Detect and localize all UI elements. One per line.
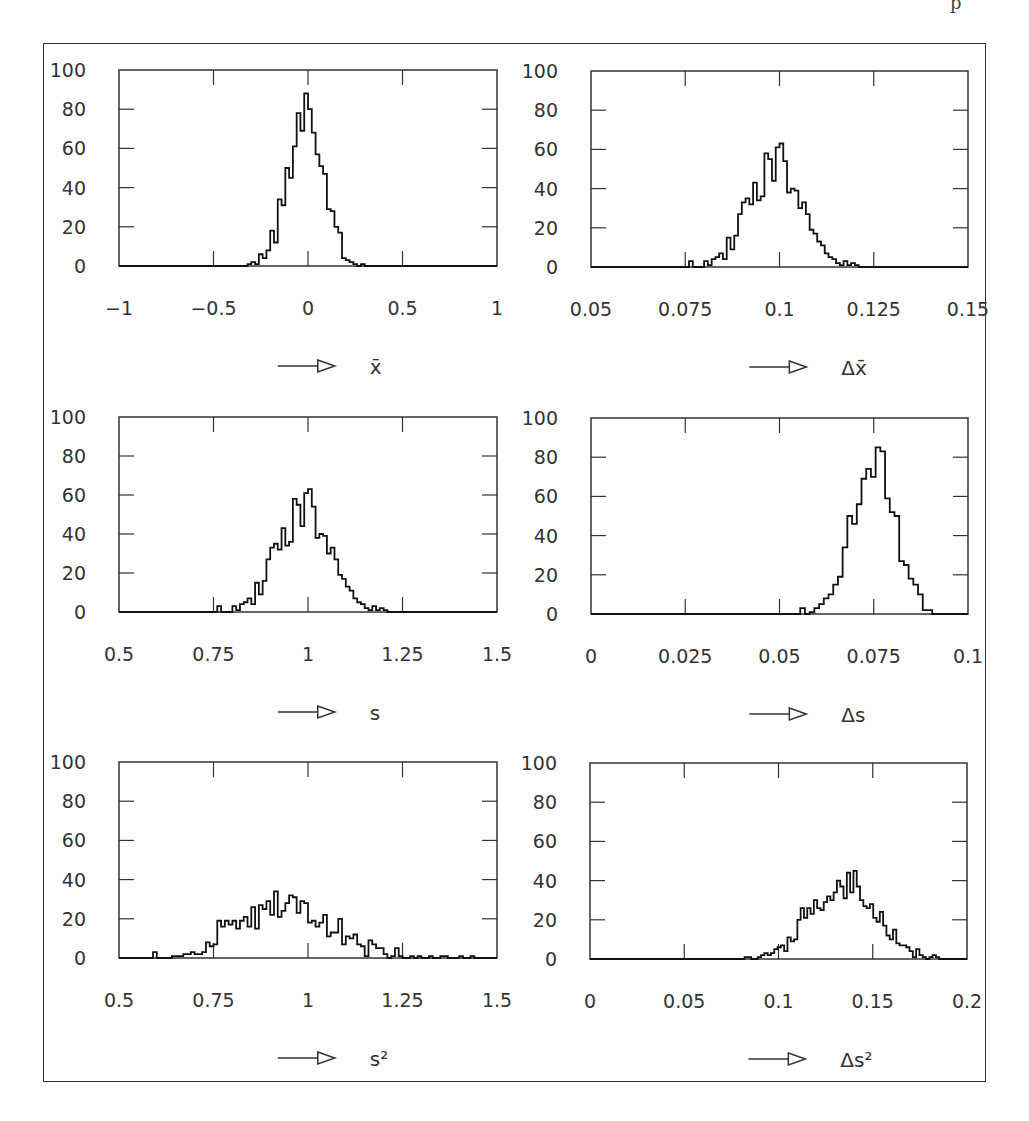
histogram-step-line (119, 489, 497, 612)
x-axis-title: Δs² (840, 1048, 872, 1072)
plot-area-frame (591, 418, 968, 614)
y-tick-label: 100 (522, 60, 558, 82)
histogram-panel-delta-s-squared: 02040608010000.050.10.150.2Δs² (521, 752, 982, 1072)
x-tick-label: 0.075 (847, 645, 901, 667)
histogram-panel-xbar: 020406080100−1−0.500.51x̄ (50, 59, 503, 379)
y-tick-label: 20 (62, 562, 86, 584)
x-tick-label: 0.15 (852, 990, 894, 1012)
x-tick-label: 0.5 (104, 989, 134, 1011)
y-tick-label: 0 (74, 947, 86, 969)
x-tick-label: 0.05 (758, 645, 800, 667)
y-tick-label: 0 (545, 948, 557, 970)
axis-arrow-icon (749, 708, 806, 720)
y-tick-label: 20 (62, 216, 86, 238)
x-tick-label: 1.5 (482, 643, 512, 665)
x-axis-title: Δx̄ (841, 356, 867, 380)
x-tick-label: 0.075 (658, 298, 712, 320)
y-tick-label: 40 (534, 525, 558, 547)
y-tick-label: 20 (62, 908, 86, 930)
y-tick-label: 0 (74, 601, 86, 623)
x-tick-label: 1.25 (381, 643, 423, 665)
x-tick-label: 0.5 (387, 297, 417, 319)
y-tick-label: 40 (62, 869, 86, 891)
y-tick-label: 20 (534, 564, 558, 586)
plot-area-frame (590, 763, 967, 959)
x-tick-label: 0 (302, 297, 314, 319)
histogram-step-line (591, 144, 968, 267)
y-tick-label: 40 (534, 178, 558, 200)
y-tick-label: 60 (62, 484, 86, 506)
y-tick-label: 80 (62, 790, 86, 812)
y-tick-label: 100 (50, 406, 86, 428)
y-tick-label: 60 (534, 485, 558, 507)
x-tick-label: 0.05 (663, 990, 705, 1012)
x-tick-label: 0.75 (192, 989, 234, 1011)
x-tick-label: 0.025 (658, 645, 712, 667)
x-tick-label: 0.15 (947, 298, 989, 320)
y-tick-label: 100 (522, 407, 558, 429)
histogram-panel-delta-s: 02040608010000.0250.050.0750.1Δs (522, 407, 983, 727)
x-axis-title: s² (370, 1047, 388, 1071)
y-tick-label: 40 (62, 523, 86, 545)
y-tick-label: 80 (62, 445, 86, 467)
x-tick-label: 0.2 (952, 990, 982, 1012)
axis-arrow-icon (278, 360, 335, 372)
y-tick-label: 100 (50, 59, 86, 81)
y-tick-label: 60 (534, 138, 558, 160)
y-tick-label: 0 (546, 256, 558, 278)
histogram-step-line (591, 447, 968, 614)
histogram-figure: 020406080100−1−0.500.51x̄0204060801000.0… (0, 0, 1029, 1121)
y-tick-label: 40 (62, 177, 86, 199)
y-tick-label: 0 (546, 603, 558, 625)
y-tick-label: 100 (521, 752, 557, 774)
plot-area-frame (119, 762, 497, 958)
y-tick-label: 60 (62, 137, 86, 159)
histogram-step-line (119, 94, 497, 266)
x-tick-label: −1 (105, 297, 133, 319)
y-tick-label: 60 (533, 830, 557, 852)
x-axis-title: x̄ (370, 355, 382, 379)
x-axis-title: Δs (841, 703, 865, 727)
x-tick-label: 0.1 (763, 990, 793, 1012)
axis-arrow-icon (278, 1052, 335, 1064)
x-tick-label: 1 (302, 643, 314, 665)
x-tick-label: 0 (585, 645, 597, 667)
x-tick-label: 1.5 (482, 989, 512, 1011)
x-axis-title: s (370, 701, 380, 725)
y-tick-label: 0 (74, 255, 86, 277)
plot-area-frame (119, 417, 497, 612)
y-tick-label: 80 (534, 99, 558, 121)
histogram-panel-s: 0204060801000.50.7511.251.5s (50, 406, 512, 725)
x-tick-label: −0.5 (190, 297, 236, 319)
x-tick-label: 0.1 (764, 298, 794, 320)
histogram-panel-s-squared: 0204060801000.50.7511.251.5s² (50, 751, 512, 1071)
y-tick-label: 20 (534, 217, 558, 239)
axis-arrow-icon (278, 706, 335, 718)
x-tick-label: 0.5 (104, 643, 134, 665)
x-tick-label: 0.125 (847, 298, 901, 320)
y-tick-label: 40 (533, 870, 557, 892)
axis-arrow-icon (749, 361, 806, 373)
x-tick-label: 1.25 (381, 989, 423, 1011)
y-tick-label: 80 (534, 446, 558, 468)
x-tick-label: 1 (302, 989, 314, 1011)
x-tick-label: 0.05 (570, 298, 612, 320)
plot-area-frame (591, 71, 968, 267)
y-tick-label: 80 (533, 791, 557, 813)
x-tick-label: 0.1 (953, 645, 983, 667)
x-tick-label: 0 (584, 990, 596, 1012)
axis-arrow-icon (748, 1053, 805, 1065)
y-tick-label: 60 (62, 829, 86, 851)
histogram-panel-delta-xbar: 0204060801000.050.0750.10.1250.15Δx̄ (522, 60, 989, 380)
y-tick-label: 100 (50, 751, 86, 773)
x-tick-label: 1 (491, 297, 503, 319)
x-tick-label: 0.75 (192, 643, 234, 665)
page-fragment-mark: p (950, 0, 962, 13)
y-tick-label: 20 (533, 909, 557, 931)
y-tick-label: 80 (62, 98, 86, 120)
